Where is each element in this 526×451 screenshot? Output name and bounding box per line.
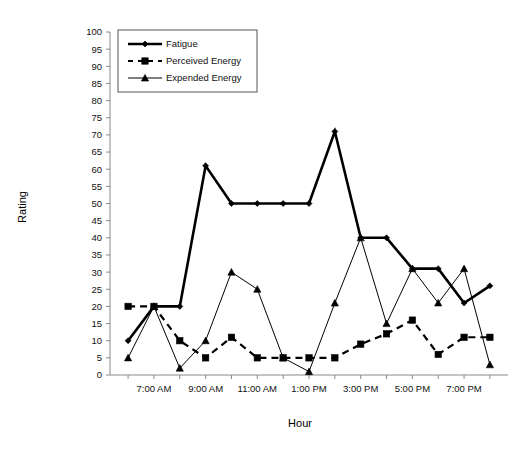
data-point-marker xyxy=(383,331,389,337)
data-point-marker xyxy=(202,355,208,361)
y-tick-label: 20 xyxy=(91,301,102,312)
chart-legend: FatiguePerceived EnergyExpended Energy xyxy=(118,30,257,92)
y-tick-label: 10 xyxy=(91,335,102,346)
data-point-marker xyxy=(305,368,312,375)
y-tick-label: 50 xyxy=(91,198,102,209)
data-point-marker xyxy=(486,361,493,368)
data-point-marker xyxy=(306,355,312,361)
x-tick-label: 7:00 PM xyxy=(446,383,481,394)
data-point-marker xyxy=(331,299,338,306)
y-tick-label: 25 xyxy=(91,284,102,295)
x-tick-label: 11:00 AM xyxy=(238,383,278,394)
data-point-marker xyxy=(254,286,261,293)
legend-label: Perceived Energy xyxy=(166,55,241,66)
data-point-marker xyxy=(461,334,467,340)
x-axis: 7:00 AM9:00 AM11:00 AM1:00 PM3:00 PM5:00… xyxy=(110,375,508,394)
x-tick-label: 1:00 PM xyxy=(291,383,326,394)
y-tick-label: 90 xyxy=(91,61,102,72)
y-axis: 0510152025303540455055606570758085909510… xyxy=(86,26,110,380)
data-point-marker xyxy=(228,334,234,340)
legend-marker-square-icon xyxy=(142,58,148,64)
data-point-marker xyxy=(409,317,415,323)
series-perceived-energy xyxy=(125,303,493,361)
x-tick-label: 7:00 AM xyxy=(137,383,172,394)
y-tick-label: 100 xyxy=(86,26,102,37)
y-tick-label: 80 xyxy=(91,95,102,106)
data-point-marker xyxy=(357,341,363,347)
data-point-marker xyxy=(460,265,467,272)
y-tick-label: 85 xyxy=(91,78,102,89)
x-axis-title: Hour xyxy=(288,417,312,429)
x-tick-label: 9:00 AM xyxy=(188,383,223,394)
data-point-marker xyxy=(383,320,390,327)
y-tick-label: 60 xyxy=(91,164,102,175)
legend-label: Fatigue xyxy=(166,38,198,49)
y-tick-label: 70 xyxy=(91,129,102,140)
y-tick-label: 55 xyxy=(91,181,102,192)
data-point-marker xyxy=(254,355,260,361)
y-tick-label: 35 xyxy=(91,249,102,260)
y-tick-label: 15 xyxy=(91,318,102,329)
y-tick-label: 95 xyxy=(91,44,102,55)
data-point-marker xyxy=(332,355,338,361)
chart-figure: 0510152025303540455055606570758085909510… xyxy=(0,0,526,451)
x-tick-label: 3:00 PM xyxy=(343,383,378,394)
data-series-group xyxy=(124,128,493,374)
y-tick-label: 5 xyxy=(97,352,102,363)
y-axis-title: Rating xyxy=(16,191,28,223)
data-point-marker xyxy=(254,201,260,207)
data-point-marker xyxy=(125,303,131,309)
data-point-marker xyxy=(177,303,183,309)
data-point-marker xyxy=(228,269,235,276)
x-tick-label: 5:00 PM xyxy=(395,383,430,394)
data-point-marker xyxy=(280,201,286,207)
y-tick-label: 0 xyxy=(97,369,102,380)
data-point-marker xyxy=(487,334,493,340)
data-point-marker xyxy=(202,337,209,344)
y-tick-label: 75 xyxy=(91,112,102,123)
series-fatigue xyxy=(125,128,493,343)
data-point-marker xyxy=(124,354,131,361)
line-chart: 0510152025303540455055606570758085909510… xyxy=(0,0,526,451)
y-tick-label: 65 xyxy=(91,146,102,157)
data-point-marker xyxy=(177,338,183,344)
y-tick-label: 45 xyxy=(91,215,102,226)
y-tick-label: 40 xyxy=(91,232,102,243)
legend-label: Expended Energy xyxy=(166,72,242,83)
y-tick-label: 30 xyxy=(91,267,102,278)
data-point-marker xyxy=(435,351,441,357)
